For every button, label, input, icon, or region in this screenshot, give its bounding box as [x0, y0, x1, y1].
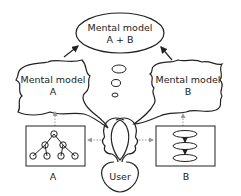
mental-model-a-cloud: Mental model A [16, 60, 108, 128]
arrow-b-to-combined [161, 47, 172, 60]
model-a-line1: Mental model [21, 74, 86, 85]
user-label: User [109, 171, 131, 182]
mental-model-b-cloud: Mental model B [134, 60, 222, 124]
mental-model-diagram: Mental model A + B Mental model A Mental… [0, 0, 241, 196]
user-head-left-profile [102, 118, 124, 162]
model-a-line2: A [50, 86, 57, 97]
combined-model-line1: Mental model [88, 22, 153, 33]
combined-mental-model: Mental model A + B [76, 13, 164, 53]
model-b-line2: B [185, 86, 192, 97]
user-head-right-profile [116, 118, 138, 162]
system-a-label: A [50, 171, 57, 182]
thought-bubble-large [112, 65, 126, 73]
system-b-label: B [183, 171, 190, 182]
combined-model-ellipse [76, 13, 164, 53]
system-a: A [26, 126, 85, 182]
combined-model-line2: A + B [106, 34, 133, 45]
system-b: B [156, 126, 215, 182]
system-b-box [156, 126, 215, 166]
user-figure: User [102, 118, 139, 192]
system-a-box [26, 126, 85, 166]
model-b-line1: Mental model [156, 74, 221, 85]
thought-bubble-medium [112, 80, 121, 87]
thought-bubbles [112, 65, 127, 97]
stacked-ellipses-icon [173, 131, 197, 162]
thought-bubble-small [112, 93, 118, 97]
cloud-a-shape [16, 60, 108, 128]
arrow-a-to-combined [64, 46, 78, 57]
tree-hierarchy-icon [30, 131, 78, 159]
cloud-b-shape [134, 60, 222, 124]
user-face-outline [111, 120, 128, 160]
